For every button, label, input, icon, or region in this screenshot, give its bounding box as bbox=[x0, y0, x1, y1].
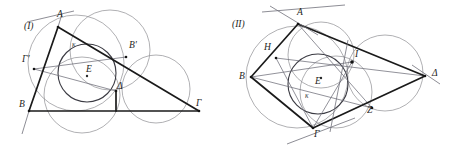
vertex-dot-B-prime bbox=[125, 56, 128, 59]
label-I-2: I bbox=[354, 49, 359, 59]
vertex-dot-Gamma bbox=[198, 110, 201, 113]
line-AB-extension-bottom bbox=[22, 111, 29, 134]
figure-1-caption: (I) bbox=[24, 21, 34, 32]
label-Delta-2: Δ bbox=[431, 68, 438, 78]
chord-gammaprime-delta bbox=[34, 69, 116, 91]
label-H-2: H bbox=[263, 42, 272, 52]
figure-1-chords bbox=[34, 57, 126, 91]
label-kappa: κ bbox=[72, 40, 76, 49]
label-Gamma: Γ bbox=[195, 98, 202, 108]
chord-B-I bbox=[251, 62, 352, 77]
label-E-2: E bbox=[314, 76, 321, 86]
label-Z-2: Z bbox=[367, 105, 373, 115]
side-Delta-Gamma-2 bbox=[313, 76, 425, 128]
figure-2-heavy-lines bbox=[251, 24, 425, 128]
circle-top-right bbox=[70, 10, 150, 90]
label-kappa-2: κ bbox=[305, 91, 309, 100]
figure-2-canvas: (II) A B Γ Δ H I Z E κ bbox=[226, 0, 452, 147]
figure-1-secant bbox=[27, 11, 74, 22]
label-B-prime: B' bbox=[129, 40, 138, 50]
vertex-dot-H-2 bbox=[275, 57, 278, 60]
figure-2-labels: (II) A B Γ Δ H I Z E κ bbox=[232, 7, 438, 139]
label-A-2: A bbox=[296, 7, 303, 17]
incenter-dot-E bbox=[86, 75, 88, 77]
vertex-dot-I-2 bbox=[350, 60, 354, 64]
circle-left-large-2 bbox=[246, 26, 348, 128]
label-E: E bbox=[85, 64, 92, 74]
label-Delta: Δ bbox=[116, 81, 123, 91]
vertex-dot-Delta-2 bbox=[424, 75, 427, 78]
label-B: B bbox=[19, 99, 25, 109]
secant-through-A bbox=[27, 11, 74, 22]
figure-1-thin-circles bbox=[28, 10, 190, 133]
label-Gamma-2: Γ bbox=[313, 129, 320, 139]
vertex-dot-A-2 bbox=[297, 23, 300, 26]
vertex-dot-B-2 bbox=[250, 76, 253, 79]
circle-right-2 bbox=[347, 35, 423, 111]
label-A: A bbox=[56, 9, 63, 19]
label-B-2: B bbox=[239, 71, 245, 81]
circle-bottom-centre bbox=[44, 57, 120, 133]
vertex-dot-B bbox=[28, 110, 31, 113]
secant-through-A-diagonal-2 bbox=[270, 6, 318, 35]
figure-2-vertex-dots bbox=[250, 23, 427, 130]
circle-bottom-right bbox=[122, 55, 190, 123]
figure-1-canvas: (I) A B Γ Γ' B' Δ E κ bbox=[0, 0, 226, 147]
figure-2-thin-circles bbox=[246, 22, 423, 128]
geometry-figure-page: (I) A B Γ Γ' B' Δ E κ bbox=[0, 0, 452, 147]
figure-2-caption: (II) bbox=[232, 19, 245, 30]
figure-1-heavy-lines bbox=[22, 14, 199, 134]
vertex-dot-A bbox=[57, 26, 60, 29]
label-Gamma-prime: Γ' bbox=[21, 54, 30, 64]
vertex-dot-Gamma-prime bbox=[33, 68, 36, 71]
